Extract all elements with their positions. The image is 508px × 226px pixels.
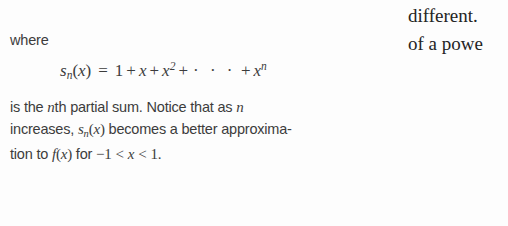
equation-ellipsis: · · · — [191, 61, 238, 80]
equation-plus-4: + — [238, 61, 254, 80]
right-column-line-1: different. — [408, 2, 508, 30]
equation-term-x: x — [139, 61, 147, 80]
equation-term-x-n-base: x — [254, 61, 262, 80]
paragraph-line-1-math-n2: n — [236, 99, 243, 115]
equation-variable-x: x — [78, 61, 86, 80]
paragraph-block: is the nth partial sum. Notice that as n… — [10, 97, 292, 165]
paragraph-line-1-text-b: th partial sum. Notice that as — [55, 99, 237, 115]
equation-plus-3: + — [175, 61, 191, 80]
paragraph-line-3: tion to f(x) for −1<x<1. — [10, 144, 292, 166]
paragraph-line-3-less-than-1: < — [112, 146, 128, 162]
equation-term-x-n-exponent: n — [261, 60, 267, 72]
paragraph-line-3-text-a: tion to — [10, 146, 52, 162]
paragraph-line-3-period: . — [158, 146, 162, 162]
scanned-page: where sn(x)=1+x+x2+· · ·+xn is the nth p… — [0, 0, 508, 226]
display-equation: sn(x)=1+x+x2+· · ·+xn — [60, 60, 267, 81]
paragraph-line-3-less-than-2: < — [134, 146, 150, 162]
paragraph-line-1-text-a: is the — [10, 99, 47, 115]
left-text-column: where — [10, 30, 370, 57]
equation-function-symbol: s — [60, 61, 67, 80]
right-text-column: different. of a powe — [408, 2, 508, 58]
equation-equals-sign: = — [91, 61, 115, 80]
paragraph-line-1-math-n: n — [47, 99, 54, 115]
equation-plus-2: + — [147, 61, 163, 80]
paragraph-line-3-text-b: for — [72, 146, 96, 162]
paragraph-line-2: increases, sn(x) becomes a better approx… — [10, 119, 292, 144]
paragraph-line-2-text-b: becomes a better approxima- — [105, 121, 292, 137]
paragraph-line-1: is the nth partial sum. Notice that as n — [10, 97, 292, 119]
paragraph-line-3-one: 1 — [151, 146, 158, 162]
paragraph-line-3-minus-one: −1 — [96, 146, 112, 162]
equation-plus-1: + — [123, 61, 139, 80]
where-label: where — [10, 30, 370, 51]
equation-term-x-squared-base: x — [162, 61, 170, 80]
paragraph-line-2-text-a: increases, — [10, 121, 78, 137]
right-column-line-2: of a powe — [408, 30, 508, 58]
